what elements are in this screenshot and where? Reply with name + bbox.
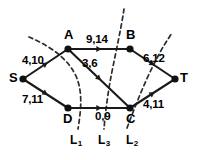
cut-label-base-l3: L bbox=[98, 133, 105, 147]
edge-arrow-a-b bbox=[96, 46, 101, 52]
node-dot-b[interactable] bbox=[126, 45, 133, 52]
edge-capacity-label-a-c: 3,6 bbox=[82, 58, 97, 70]
node-label-b: B bbox=[126, 28, 135, 41]
cut-label-subscript-l1: 1 bbox=[78, 139, 82, 148]
cut-line-l1 bbox=[29, 37, 81, 129]
edge-capacity-label-a-b: 9,14 bbox=[86, 34, 108, 46]
cut-label-l2: L2 bbox=[126, 134, 138, 146]
node-dot-t[interactable] bbox=[171, 75, 178, 82]
edge-capacity-label-b-t: 6,12 bbox=[143, 53, 165, 65]
edge-capacity-label-s-d: 7,11 bbox=[22, 94, 43, 106]
node-label-d: D bbox=[63, 112, 72, 125]
edge-capacity-label-s-a: 4,10 bbox=[22, 55, 44, 67]
node-dot-a[interactable] bbox=[64, 45, 71, 52]
node-dot-s[interactable] bbox=[19, 75, 26, 82]
edge-capacity-label-d-c: 0,9 bbox=[95, 111, 110, 123]
edge-capacity-label-c-t: 4,11 bbox=[143, 99, 164, 111]
node-label-c: C bbox=[126, 112, 135, 125]
cut-label-base-l2: L bbox=[126, 133, 133, 147]
node-label-a: A bbox=[64, 28, 73, 41]
node-label-t: T bbox=[180, 71, 188, 84]
cut-label-l1: L1 bbox=[70, 134, 82, 146]
edge-a-b bbox=[68, 46, 130, 52]
network-flow-cut-figure: SABDCT4,107,119,143,66,120,94,11L1L3L2 bbox=[0, 0, 199, 160]
cut-label-subscript-l2: 2 bbox=[134, 139, 138, 148]
cut-label-base-l1: L bbox=[70, 133, 77, 147]
node-label-s: S bbox=[9, 71, 18, 84]
cut-label-subscript-l3: 3 bbox=[106, 139, 110, 148]
cut-label-l3: L3 bbox=[98, 134, 110, 146]
